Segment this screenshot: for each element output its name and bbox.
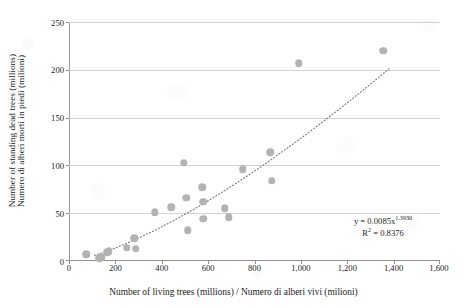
equation-text: y = 0.0085x — [354, 216, 395, 226]
data-point — [83, 251, 91, 259]
data-point — [199, 184, 207, 192]
data-point — [132, 245, 140, 253]
y-axis-title: Number of standing dead trees (millions)… — [2, 22, 32, 240]
data-point — [131, 234, 139, 242]
y-tick-label-100: 100 — [38, 162, 64, 171]
data-point — [182, 194, 190, 202]
x-tick-label-800: 800 — [235, 264, 275, 273]
equation-exponent: 1.3930 — [395, 215, 412, 221]
r-squared-exponent: 2 — [368, 228, 371, 234]
data-point — [199, 198, 207, 206]
trendline-equation-annotation: y = 0.0085x1.3930 R2 = 0.8376 — [333, 215, 433, 240]
x-tick-label-400: 400 — [142, 264, 182, 273]
scatter-chart: Number of standing dead trees (millions)… — [0, 0, 467, 308]
y-tick-label-50: 50 — [38, 210, 64, 219]
y-axis-tick-labels: 250 200 150 100 50 0 — [36, 0, 64, 308]
y-tick-label-150: 150 — [38, 114, 64, 123]
data-point — [184, 227, 192, 235]
data-point — [180, 159, 188, 167]
trendline-equation: y = 0.0085x1.3930 — [333, 215, 433, 227]
x-tick-label-0: 0 — [49, 264, 89, 273]
data-point — [267, 148, 275, 156]
y-tick-label-200: 200 — [38, 66, 64, 75]
data-point — [239, 165, 247, 173]
x-axis-title: Number of living trees (millions) / Nume… — [0, 288, 467, 297]
data-point — [200, 215, 208, 223]
x-tick-label-1600: 1,600 — [419, 264, 459, 273]
data-point — [168, 204, 176, 212]
x-tick-label-600: 600 — [188, 264, 228, 273]
x-tick-label-1200: 1,200 — [327, 264, 367, 273]
data-point — [151, 208, 159, 216]
x-tick-label-200: 200 — [95, 264, 135, 273]
data-point — [225, 213, 233, 221]
data-point — [123, 244, 131, 252]
y-tick-label-250: 250 — [38, 19, 64, 28]
data-point — [295, 59, 303, 67]
r-squared-value: = 0.8376 — [373, 228, 404, 238]
y-axis-title-line-italian: Numero di alberi morti in piedi (milioni… — [17, 55, 26, 207]
x-tick-label-1400: 1,400 — [374, 264, 414, 273]
data-point — [379, 47, 387, 55]
data-point — [105, 248, 113, 256]
x-tick-label-1000: 1,000 — [281, 264, 321, 273]
trendline-r-squared: R2 = 0.8376 — [333, 227, 433, 239]
x-axis-tick-labels: 0 200 400 600 800 1,000 1,200 1,400 1,60… — [69, 264, 440, 278]
data-point — [221, 205, 229, 213]
data-point — [268, 177, 276, 185]
